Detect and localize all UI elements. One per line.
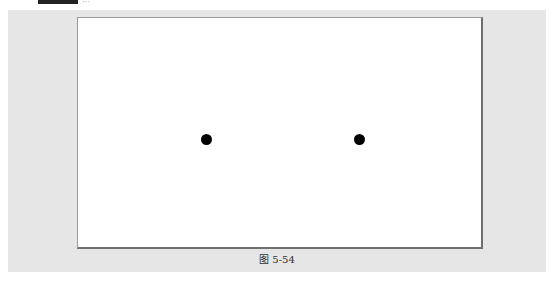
truncated-heading: … — [30, 0, 340, 4]
heading-text: … — [82, 0, 91, 4]
figure-caption: 图 5-54 — [8, 251, 546, 266]
heading-marker — [38, 0, 78, 4]
black-dot-right — [354, 134, 365, 145]
figure-panel: 图 5-54 — [8, 10, 546, 272]
black-dot-left — [201, 134, 212, 145]
figure-canvas — [77, 17, 483, 249]
